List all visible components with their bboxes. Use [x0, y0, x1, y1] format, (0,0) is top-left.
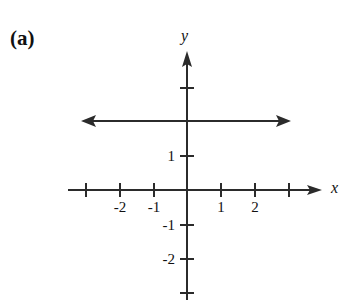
- y-tick-label-neg2: -2: [145, 252, 175, 267]
- y-axis-label: y: [181, 28, 188, 44]
- x-tick-label-pos2: 2: [251, 200, 259, 215]
- figure-panel: (a) y x -2 -1 1 2 1 -1 -2: [0, 0, 357, 303]
- x-tick-label-neg1: -1: [148, 200, 161, 215]
- x-tick-label-neg2: -2: [114, 200, 127, 215]
- x-tick-label-pos1: 1: [217, 200, 225, 215]
- coordinate-plot: [0, 0, 357, 303]
- x-axis-label: x: [331, 180, 338, 196]
- y-tick-label-neg1: -1: [145, 218, 175, 233]
- y-tick-label-pos1: 1: [150, 149, 175, 164]
